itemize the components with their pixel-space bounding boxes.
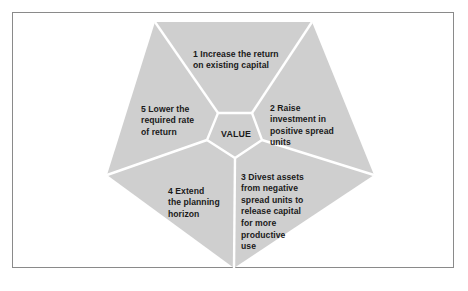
segment-4-text: Extend the planning horizon [168,186,220,219]
segment-3-number: 3 [241,172,246,182]
segment-5-number: 5 [141,104,146,114]
center-value-label: VALUE [221,129,251,139]
segment-1-text: Increase the return on existing capital [193,49,279,71]
segment-2-number: 2 [270,103,275,113]
segment-5-label: 5 Lower the required rate of return [141,92,194,138]
segment-4-number: 4 [168,186,173,196]
segment-2-text: Raise investment in positive spread unit… [270,103,334,148]
segment-3-label: 3 Divest assets from negative spread uni… [241,160,304,253]
segment-4-label: 4 Extend the planning horizon [168,174,220,220]
segment-5-text: Lower the required rate of return [141,104,194,137]
segment-1-number: 1 [193,49,198,59]
segment-2-label: 2 Raise investment in positive spread un… [270,91,334,149]
segment-3-text: Divest assets from negative spread units… [241,172,304,252]
segment-1-label: 1 Increase the return on existing capita… [193,37,279,72]
